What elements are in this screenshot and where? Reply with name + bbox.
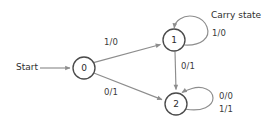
state-node-0-label: 0 — [81, 63, 87, 73]
edge-label-self-loop-state-2-b: 1/1 — [219, 104, 233, 114]
state-node-2[interactable]: 2 — [165, 93, 187, 115]
edge-label-self-loop-state-1: 1/0 — [212, 28, 226, 38]
carry-state-annotation: Carry state — [211, 10, 261, 20]
edge-0-to-1 — [94, 45, 161, 63]
state-diagram: 0 1 2 Start 1/0 0/1 0/1 1/0 0/0 1/1 Carr… — [0, 0, 280, 128]
state-node-1[interactable]: 1 — [163, 29, 185, 51]
state-node-0[interactable]: 0 — [73, 57, 95, 79]
state-node-1-label: 1 — [171, 35, 177, 45]
edge-1-to-2 — [175, 52, 176, 90]
edge-label-0-to-2: 0/1 — [104, 87, 118, 97]
edge-label-1-to-2: 0/1 — [181, 61, 195, 71]
state-node-2-label: 2 — [173, 99, 179, 109]
start-label: Start — [16, 62, 38, 72]
edge-label-self-loop-state-2-a: 0/0 — [219, 91, 233, 101]
edge-label-0-to-1: 1/0 — [104, 37, 118, 47]
